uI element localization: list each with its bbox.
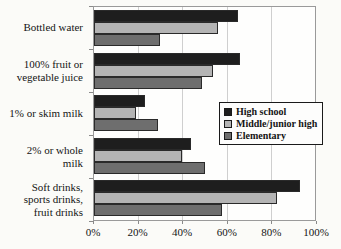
bar-middle-junior-high-soft-drinks-sports-drinks-fruit-drinks <box>94 192 277 204</box>
y-axis-tick-mark <box>89 49 93 50</box>
category-label-line: 2% or whole <box>27 144 83 157</box>
x-axis-tick-mark <box>271 221 272 224</box>
bar-high-school-1-or-skim-milk <box>94 95 145 107</box>
category-label-2-or-whole-milk: 2% or wholemilk <box>0 135 88 178</box>
legend-label-middle-junior-high: Middle/junior high <box>236 118 317 129</box>
x-axis-tick-mark <box>227 221 228 224</box>
y-axis-tick-mark <box>89 6 93 7</box>
category-label-line: 100% fruit or <box>24 58 83 71</box>
y-axis-tick-mark <box>89 221 93 222</box>
bar-elementary-100-fruit-or-vegetable-juice <box>94 77 202 89</box>
y-axis-tick-mark <box>89 178 93 179</box>
category-label-100-fruit-or-vegetable-juice: 100% fruit orvegetable juice <box>0 49 88 92</box>
bar-high-school-2-or-whole-milk <box>94 138 191 150</box>
bar-middle-junior-high-100-fruit-or-vegetable-juice <box>94 65 213 77</box>
category-label-bottled-water: Bottled water <box>0 6 88 49</box>
y-axis-tick-mark <box>89 135 93 136</box>
bar-high-school-soft-drinks-sports-drinks-fruit-drinks <box>94 180 300 192</box>
bar-high-school-bottled-water <box>94 10 238 22</box>
x-axis-tick-mark <box>93 221 94 224</box>
bar-elementary-2-or-whole-milk <box>94 162 205 174</box>
x-axis-tick-label-80: 80% <box>261 226 281 238</box>
bar-high-school-100-fruit-or-vegetable-juice <box>94 53 240 65</box>
category-label-1-or-skim-milk: 1% or skim milk <box>0 92 88 135</box>
x-axis-tick-label-20: 20% <box>128 226 148 238</box>
legend-label-elementary: Elementary <box>236 130 286 141</box>
x-axis: 0%20%40%60%80%100% <box>93 226 316 242</box>
category-label-line: fruit drinks <box>34 206 83 219</box>
category-label-line: Soft drinks, <box>32 181 83 194</box>
x-axis-tick-mark <box>316 221 317 224</box>
bar-middle-junior-high-2-or-whole-milk <box>94 150 182 162</box>
category-label-line: Bottled water <box>23 21 83 34</box>
grouped-bar-chart-figure: 0%20%40%60%80%100% High schoolMiddle/jun… <box>0 0 341 249</box>
legend-item-elementary: Elementary <box>224 130 317 141</box>
legend-swatch-middle-junior-high <box>224 120 232 128</box>
bar-elementary-1-or-skim-milk <box>94 119 158 131</box>
x-axis-tick-label-0: 0% <box>86 226 101 238</box>
category-label-line: 1% or skim milk <box>9 107 83 120</box>
category-label-soft-drinks-sports-drinks-fruit-drinks: Soft drinks,sports drinks,fruit drinks <box>0 178 88 221</box>
category-label-line: sports drinks, <box>24 193 83 206</box>
legend-swatch-elementary <box>224 132 232 140</box>
legend: High schoolMiddle/junior highElementary <box>219 102 323 145</box>
x-axis-tick-mark <box>182 221 183 224</box>
legend-label-high-school: High school <box>236 106 286 117</box>
legend-item-high-school: High school <box>224 106 317 117</box>
bar-elementary-bottled-water <box>94 34 160 46</box>
category-label-line: vegetable juice <box>17 71 83 84</box>
category-label-line: milk <box>63 157 83 170</box>
bar-middle-junior-high-1-or-skim-milk <box>94 107 136 119</box>
bar-middle-junior-high-bottled-water <box>94 22 218 34</box>
x-axis-tick-label-40: 40% <box>172 226 192 238</box>
x-axis-tick-label-100: 100% <box>303 226 329 238</box>
y-axis-tick-mark <box>89 92 93 93</box>
x-axis-tick-mark <box>138 221 139 224</box>
legend-swatch-high-school <box>224 108 232 116</box>
bar-elementary-soft-drinks-sports-drinks-fruit-drinks <box>94 204 222 216</box>
legend-item-middle-junior-high: Middle/junior high <box>224 118 317 129</box>
x-axis-tick-label-60: 60% <box>217 226 237 238</box>
